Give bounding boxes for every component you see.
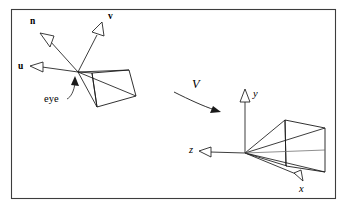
axis-x-arrowhead [294,170,303,181]
eye-callout-arrowhead [71,76,79,86]
label-vector-v: v [108,12,113,22]
camera-view-transform-figure: n v u eye V y z x [0,0,347,214]
label-axis-x: x [299,184,304,195]
transform-arrow-curve [174,92,215,110]
axis-z-arrowhead [199,147,211,157]
axis-y-arrowhead [240,89,250,102]
label-axis-z: z [189,145,193,156]
vector-u-arrowhead [30,62,43,72]
vector-n-shaft [50,41,78,72]
label-eye: eye [44,94,59,105]
left-frustum-far-plane [92,70,136,107]
vector-v-arrowhead [92,22,104,36]
axis-z-shaft [210,152,245,153]
vector-u-shaft [42,67,78,72]
label-transform-V: V [192,78,200,91]
right-frustum-edge-tl [245,120,285,153]
eye-callout-leader [67,83,75,99]
label-axis-y: y [253,89,258,100]
diagram-canvas [0,0,347,214]
left-frustum-edge-br [78,72,136,96]
vector-v-shaft [78,35,97,72]
vector-n-arrowhead [40,33,54,47]
transform-arrow-head [210,106,221,113]
right-frustum-center-ray [245,150,325,153]
label-vector-n: n [30,17,35,27]
right-frustum-edge-bl [245,153,287,166]
label-vector-u: u [18,62,23,72]
right-frustum-inner-vertical [285,120,286,166]
